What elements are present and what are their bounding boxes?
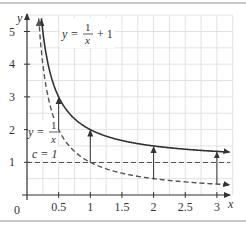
y-tick-label: 3	[9, 90, 15, 104]
svg-text:1: 1	[85, 21, 91, 33]
x-tick-label: 3	[214, 200, 220, 214]
svg-text:c = 1: c = 1	[32, 147, 57, 161]
label-c-equals-1: c = 1	[30, 147, 60, 161]
x-tick-labels: 0.511.522.53	[51, 200, 220, 214]
y-tick-label: 1	[9, 155, 15, 169]
label-top-equation: y = 1 x + 1	[60, 18, 115, 48]
svg-text:x: x	[84, 34, 90, 46]
svg-text:x: x	[50, 133, 56, 145]
y-tick-label: 5	[9, 25, 15, 39]
origin-label: 0	[14, 203, 20, 217]
x-axis-label: x	[227, 197, 234, 211]
svg-text:1: 1	[51, 119, 57, 131]
label-bottom-equation: y = 1 x	[27, 119, 59, 148]
y-axis-label: y	[16, 11, 23, 25]
plot: y x 0 0.511.522.53 12345 y = 1 x + 1 y =…	[0, 0, 246, 228]
x-tick-label: 1.5	[114, 200, 129, 214]
x-tick-label: 2.5	[178, 200, 193, 214]
svg-text:+ 1: + 1	[97, 27, 113, 41]
grid	[27, 15, 233, 195]
y-tick-label: 2	[9, 123, 15, 137]
svg-text:y =: y =	[27, 125, 44, 139]
x-tick-label: 1	[87, 200, 93, 214]
y-tick-labels: 12345	[9, 25, 15, 170]
x-tick-label: 0.5	[51, 200, 66, 214]
x-tick-label: 2	[151, 200, 157, 214]
y-tick-label: 4	[9, 57, 15, 71]
svg-text:y =: y =	[61, 27, 78, 41]
